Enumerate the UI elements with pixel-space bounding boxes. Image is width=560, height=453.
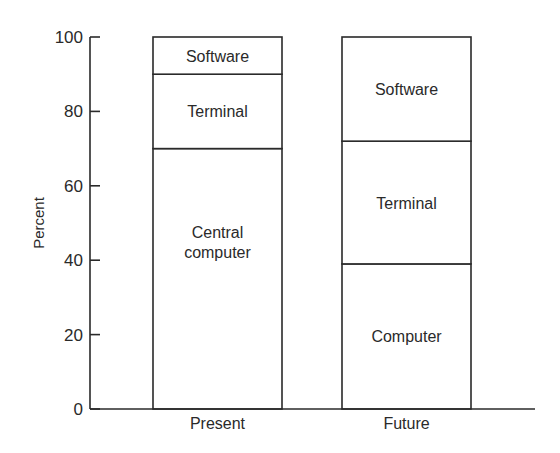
x-category-label: Present [190, 415, 246, 432]
y-tick-label: 60 [64, 177, 83, 196]
y-tick-label: 40 [64, 251, 83, 270]
segment-label: computer [184, 244, 251, 261]
segment-central-computer [153, 149, 282, 409]
y-axis-title: Percent [30, 196, 47, 249]
stacked-bar-chart: 020406080100 CentralcomputerTerminalSoft… [0, 0, 560, 453]
segment-label: Terminal [187, 103, 247, 120]
y-tick-label: 0 [74, 400, 83, 419]
x-category-label: Future [383, 415, 429, 432]
segment-label: Software [375, 81, 438, 98]
y-tick-label: 20 [64, 326, 83, 345]
x-axis: PresentFuture [90, 409, 535, 432]
segment-label: Software [186, 48, 249, 65]
bar-future: ComputerTerminalSoftware [342, 37, 471, 409]
bars: CentralcomputerTerminalSoftwareComputerT… [153, 37, 471, 409]
segment-label: Computer [371, 328, 442, 345]
y-tick-label: 80 [64, 102, 83, 121]
y-tick-label: 100 [55, 28, 83, 47]
segment-label: Central [192, 224, 244, 241]
y-axis: 020406080100 [55, 28, 100, 419]
bar-present: CentralcomputerTerminalSoftware [153, 37, 282, 409]
segment-label: Terminal [376, 195, 436, 212]
